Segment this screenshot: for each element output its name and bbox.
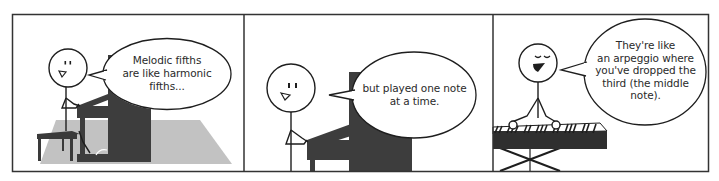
speech-text-panel-3: They're like an arpeggio where you've dr…	[588, 39, 703, 102]
keyboard-stand-icon	[500, 148, 560, 171]
panel-2	[267, 52, 476, 171]
speech-text-panel-2: but played one note at a time.	[357, 82, 472, 108]
stick-figure	[509, 44, 560, 129]
comic-strip: Melodic fifths are like harmonic fifths.…	[0, 0, 719, 181]
speech-text-panel-1: Melodic fifths are like harmonic fifths.…	[112, 54, 222, 93]
